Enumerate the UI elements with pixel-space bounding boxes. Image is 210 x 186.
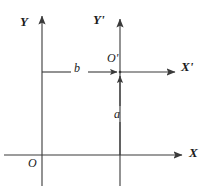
x-prime-axis-label: X' <box>181 60 193 73</box>
origin-label: O <box>28 157 37 169</box>
y-axis-label: Y <box>20 15 28 28</box>
origin-prime-point <box>119 71 122 74</box>
a-offset-label: a <box>114 108 120 120</box>
x-axis-label: X <box>189 146 198 159</box>
origin-prime-label: O' <box>107 52 118 64</box>
translated-axes-figure: Y Y' X' X O' O b a <box>0 0 210 186</box>
b-offset-label: b <box>74 62 80 74</box>
y-prime-axis-label: Y' <box>93 13 105 26</box>
